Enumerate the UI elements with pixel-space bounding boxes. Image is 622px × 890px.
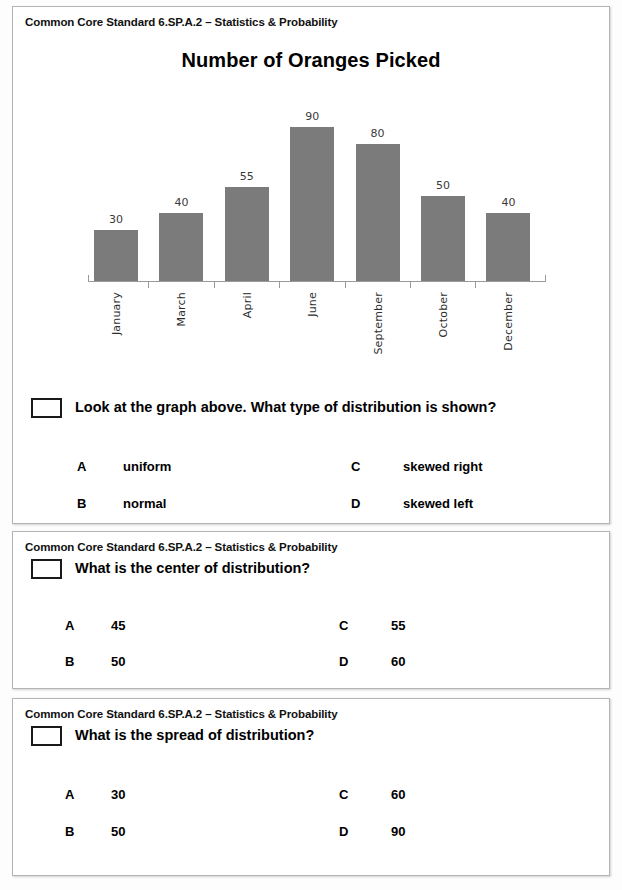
category-label: October xyxy=(437,292,450,337)
bar-column: 40 xyxy=(486,87,530,282)
x-axis-tick xyxy=(345,282,346,288)
option-text-1b[interactable]: normal xyxy=(123,496,166,511)
x-axis-tick xyxy=(410,282,411,288)
option-letter-1c: C xyxy=(351,459,360,474)
bar-column: 55 xyxy=(225,87,269,282)
x-axis-right-cap xyxy=(545,275,546,282)
option-letter-2b: B xyxy=(65,654,74,669)
option-letter-3a: A xyxy=(65,787,74,802)
option-text-1c[interactable]: skewed right xyxy=(403,459,482,474)
bar xyxy=(356,144,400,282)
bar-value-label: 30 xyxy=(94,213,138,226)
x-axis-tick xyxy=(475,282,476,288)
option-text-3b[interactable]: 50 xyxy=(111,824,125,839)
option-letter-2c: C xyxy=(339,618,348,633)
bar-value-label: 50 xyxy=(421,179,465,192)
bar-column: 50 xyxy=(421,87,465,282)
question-prompt-1: Look at the graph above. What type of di… xyxy=(75,399,496,415)
x-axis-line xyxy=(88,281,546,282)
worksheet-page: Common Core Standard 6.SP.A.2 – Statisti… xyxy=(0,0,622,890)
category-label: January xyxy=(110,292,123,335)
bar xyxy=(421,196,465,282)
x-axis-tick xyxy=(279,282,280,288)
option-letter-1d: D xyxy=(351,496,360,511)
option-text-3d[interactable]: 90 xyxy=(391,824,405,839)
option-text-2b[interactable]: 50 xyxy=(111,654,125,669)
category-label: June xyxy=(306,292,319,317)
question-card-3: Common Core Standard 6.SP.A.2 – Statisti… xyxy=(12,698,610,876)
question-card-1: Common Core Standard 6.SP.A.2 – Statisti… xyxy=(12,6,610,524)
option-letter-3c: C xyxy=(339,787,348,802)
bar-column: 30 xyxy=(94,87,138,282)
bar-value-label: 55 xyxy=(225,170,269,183)
bar xyxy=(290,127,334,282)
option-letter-2a: A xyxy=(65,618,74,633)
category-label: April xyxy=(241,292,254,318)
chart-title: Number of Oranges Picked xyxy=(13,49,609,72)
category-label: December xyxy=(502,292,515,351)
option-text-3c[interactable]: 60 xyxy=(391,787,405,802)
bar xyxy=(486,213,530,282)
bar-column: 40 xyxy=(159,87,203,282)
x-axis-tick xyxy=(148,282,149,288)
bar xyxy=(159,213,203,282)
option-letter-1a: A xyxy=(77,459,86,474)
bar xyxy=(94,230,138,282)
standard-header-2: Common Core Standard 6.SP.A.2 – Statisti… xyxy=(25,541,337,553)
bar xyxy=(225,187,269,282)
option-text-1d[interactable]: skewed left xyxy=(403,496,473,511)
option-text-3a[interactable]: 30 xyxy=(111,787,125,802)
bar-value-label: 40 xyxy=(486,196,530,209)
option-letter-1b: B xyxy=(77,496,86,511)
bar-column: 80 xyxy=(356,87,400,282)
option-letter-3b: B xyxy=(65,824,74,839)
option-letter-3d: D xyxy=(339,824,348,839)
category-label: September xyxy=(372,292,385,355)
option-text-1a[interactable]: uniform xyxy=(123,459,171,474)
bar-value-label: 40 xyxy=(159,196,203,209)
question-card-2: Common Core Standard 6.SP.A.2 – Statisti… xyxy=(12,531,610,689)
answer-checkbox-3[interactable] xyxy=(31,726,62,746)
question-prompt-2: What is the center of distribution? xyxy=(75,560,310,576)
option-text-2a[interactable]: 45 xyxy=(111,618,125,633)
x-axis-left-cap xyxy=(88,275,89,282)
category-label: March xyxy=(175,292,188,327)
question-prompt-3: What is the spread of distribution? xyxy=(75,727,314,743)
standard-header-1: Common Core Standard 6.SP.A.2 – Statisti… xyxy=(25,16,337,28)
answer-checkbox-2[interactable] xyxy=(31,559,62,579)
bar-value-label: 80 xyxy=(356,127,400,140)
x-axis-tick xyxy=(214,282,215,288)
option-letter-2d: D xyxy=(339,654,348,669)
chart-plot-area: 30405590805040 xyxy=(75,87,555,282)
option-text-2c[interactable]: 55 xyxy=(391,618,405,633)
bar-chart: 30405590805040 JanuaryMarchAprilJuneSept… xyxy=(75,87,555,377)
bar-column: 90 xyxy=(290,87,334,282)
standard-header-3: Common Core Standard 6.SP.A.2 – Statisti… xyxy=(25,708,337,720)
bar-value-label: 90 xyxy=(290,110,334,123)
answer-checkbox-1[interactable] xyxy=(31,398,62,418)
option-text-2d[interactable]: 60 xyxy=(391,654,405,669)
